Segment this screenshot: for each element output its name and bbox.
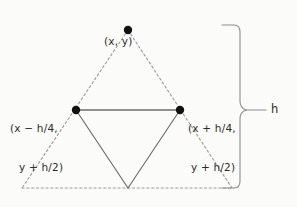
inner-triangle-right-edge xyxy=(128,110,180,188)
right-midpoint-coordinate-label: (x + h/4, y + h/2) xyxy=(188,96,236,200)
left-midpoint-coordinate-label: (x − h/4, y + h/2) xyxy=(10,96,63,200)
left-midpoint-x-text: (x − h/4, xyxy=(10,122,63,135)
right-midpoint-y-text: y + h/2) xyxy=(188,161,236,174)
diagram-canvas: (x, y) (x − h/4, y + h/2) (x + h/4, y + … xyxy=(0,0,297,207)
vertex-dot-left-midpoint xyxy=(72,106,80,114)
vertex-dot-right-midpoint xyxy=(176,106,184,114)
inner-triangle-group xyxy=(76,110,180,188)
apex-coordinate-label: (x, y) xyxy=(104,9,133,74)
right-midpoint-x-text: (x + h/4, xyxy=(188,122,236,135)
left-midpoint-y-text: y + h/2) xyxy=(10,161,63,174)
height-label: h xyxy=(271,103,279,116)
apex-coordinate-text: (x, y) xyxy=(104,35,133,48)
inner-triangle-left-edge xyxy=(76,110,128,188)
